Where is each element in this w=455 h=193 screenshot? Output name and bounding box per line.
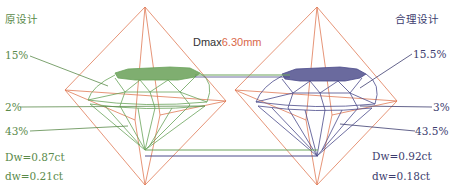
- diamond-comparison-diagram: [0, 0, 455, 193]
- left-Dw: Dw=0.87ct: [5, 151, 65, 163]
- dmax-text: Dmax: [193, 36, 222, 48]
- left-table-pct: 15%: [5, 49, 28, 61]
- right-dw: dw=0.18ct: [372, 170, 430, 182]
- left-dw: dw=0.21ct: [5, 170, 63, 182]
- left-pavilion-pct: 43%: [5, 125, 28, 137]
- right-title: 合理设计: [395, 13, 439, 25]
- right-leaders: [340, 54, 432, 131]
- dmax-label: Dmax6.30mm: [193, 36, 261, 48]
- left-crown-pct: 2%: [5, 101, 22, 113]
- right-table-pct: 15.5%: [413, 48, 446, 60]
- right-Dw: Dw=0.92ct: [372, 150, 432, 162]
- right-diamond: [256, 67, 377, 156]
- dmax-value: 6.30mm: [222, 36, 262, 48]
- left-title: 原设计: [5, 13, 38, 25]
- right-crown-pct: 3%: [433, 101, 450, 113]
- right-pavilion-pct: 43.5%: [415, 125, 448, 137]
